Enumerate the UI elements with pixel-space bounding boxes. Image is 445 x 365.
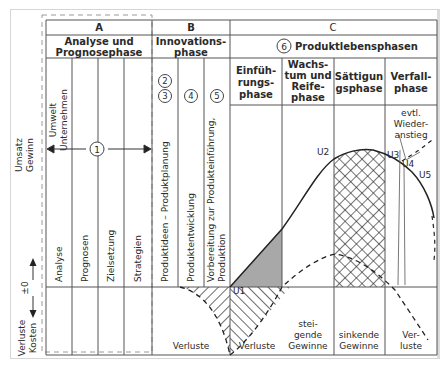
curve-label-u4: U4 [402, 159, 415, 169]
phase-growth-3: Reife- [291, 81, 324, 92]
marker-5: 5 [214, 91, 219, 101]
section-c-title: Produktlebensphasen [295, 41, 418, 52]
phase-decline-1: Verfall- [390, 71, 431, 82]
phase-saturation-1: Sättigun [335, 71, 383, 82]
col-a-environment-1: Umwelt [48, 102, 58, 137]
marker-3: 3 [162, 91, 167, 101]
c-growth-bottom-1: stei- [298, 319, 318, 329]
section-b-title-1: Innovations- [156, 36, 226, 47]
annotation-line-2: Wieder- [394, 119, 428, 129]
marker-6: 6 [281, 42, 287, 52]
phase-saturation-2: gsphase [336, 83, 383, 94]
y-axis-top-label-1: Umsatz [14, 138, 24, 172]
section-b-title-2: phase [174, 47, 208, 58]
phase-intro-1: Einfüh- [236, 65, 276, 76]
section-c-letter: C [330, 22, 337, 33]
curve-label-u2: U2 [317, 147, 329, 157]
marker-1: 1 [94, 145, 100, 155]
phase-growth-1: Wachs- [288, 59, 329, 70]
annotation-line-3: anstieg [394, 130, 427, 140]
c-growth-bottom-2: gende [294, 330, 323, 340]
y-axis-arrow [30, 258, 37, 318]
col-a-objectives: Zielsetzung [106, 230, 116, 282]
annotation-line-1: evtl. [401, 108, 421, 118]
revival-curve [402, 140, 435, 260]
product-lifecycle-diagram: 1 A B C Analyse und Prognosephase Innova… [0, 0, 445, 365]
col-a-forecasts: Prognosen [80, 235, 90, 282]
section-b-letter: B [187, 22, 195, 33]
y-axis-bottom-label-2: Kosten [28, 323, 38, 353]
col-b-preparation-1: Vorbereitung zur Produkteinführung, [206, 118, 216, 282]
saturation-crosshatch [334, 149, 385, 287]
phase-growth-2: tum und [284, 70, 331, 81]
curve-label-u3: U3 [387, 150, 399, 160]
c-saturation-bottom-1: sinkende [339, 330, 380, 340]
phase-intro-2: rungs- [238, 77, 274, 88]
c-decline-bottom-1: Ver- [402, 330, 419, 340]
curve-label-u1: U1 [233, 286, 245, 296]
section-a-dashed-box [42, 15, 152, 352]
c-decline-bottom-2: luste [400, 341, 422, 351]
curve-label-u5: U5 [419, 170, 431, 180]
y-axis-top-label-2: Gewinn [25, 138, 35, 172]
c-growth-bottom-3: Gewinne [288, 341, 328, 351]
annotation-leader [398, 135, 420, 285]
col-b-preparation-2: Produktion [217, 234, 227, 282]
marker-2: 2 [162, 76, 167, 86]
col-a-analysis: Analyse [54, 246, 64, 282]
y-axis-bottom-label-1: Verluste [17, 319, 27, 356]
section-a-title-2: Prognosephase [56, 47, 143, 58]
c-intro-losses: Verluste [239, 341, 276, 351]
section-a-letter: A [95, 22, 103, 33]
section-a-title-1: Analyse und [64, 36, 133, 47]
b-bottom-losses: Verluste [173, 341, 210, 351]
phase-decline-2: phase [394, 83, 428, 94]
phase-growth-4: phase [291, 92, 325, 103]
col-b-development: Produktentwicklung [186, 193, 196, 282]
y-axis-zero-label: ±0 [20, 281, 30, 295]
marker-4: 4 [188, 91, 193, 101]
c-saturation-bottom-2: Gewinne [339, 341, 379, 351]
col-a-environment-2: Unternehmen [59, 89, 69, 151]
phase-intro-3: phase [239, 89, 273, 100]
col-a-strategies: Strategien [133, 235, 143, 282]
col-b-ideas: Produktideen – Produktplanung [160, 141, 170, 282]
